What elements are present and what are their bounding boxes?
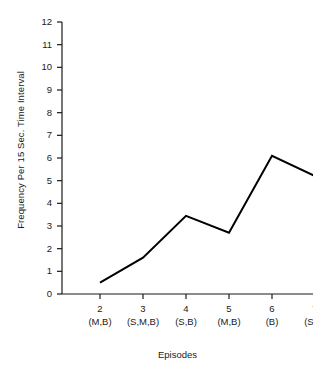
y-tick-label: 6	[30, 153, 52, 163]
y-axis-title: Frequency Per 15 Sec. Time Interval	[14, 10, 28, 290]
plot-svg	[62, 22, 293, 294]
x-axis-title: Episodes	[62, 349, 293, 360]
y-tick-label: 0	[30, 289, 52, 299]
y-tick-label: 5	[30, 176, 52, 186]
x-tick-episode-number: 7	[283, 302, 313, 315]
y-tick-label: 10	[30, 62, 52, 72]
y-tick-label: 2	[30, 244, 52, 254]
data-series-line	[100, 156, 313, 283]
x-axis-ticks	[100, 294, 313, 299]
y-axis-tick-labels: 0123456789101112	[30, 22, 52, 294]
x-tick-label: 7(S,B)	[283, 302, 313, 328]
x-axis-tick-labels: 2(M,B)3(S,M,B)4(S,B)5(M,B)6(B)7(S,B)	[62, 302, 293, 336]
y-tick-label: 9	[30, 85, 52, 95]
y-tick-label: 4	[30, 198, 52, 208]
y-tick-label: 12	[30, 17, 52, 27]
plot-area	[62, 22, 293, 294]
y-tick-label: 8	[30, 108, 52, 118]
x-tick-episode-code: (S,B)	[283, 315, 313, 328]
y-tick-label: 7	[30, 130, 52, 140]
y-tick-label: 3	[30, 221, 52, 231]
line-chart-figure: Frequency Per 15 Sec. Time Interval 0123…	[0, 0, 313, 373]
y-axis-ticks	[57, 22, 62, 294]
y-tick-label: 1	[30, 266, 52, 276]
y-tick-label: 11	[30, 40, 52, 50]
